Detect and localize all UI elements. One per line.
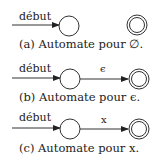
start-label: début bbox=[19, 10, 52, 23]
automaton-empty-set: début (a) Automate pour ∅. bbox=[12, 10, 147, 51]
automata-figure: début (a) Automate pour ∅. début ϵ (b) A… bbox=[0, 0, 162, 162]
accepting-state bbox=[127, 15, 147, 35]
start-label: début bbox=[19, 111, 52, 124]
accepting-state bbox=[129, 69, 149, 89]
initial-state bbox=[60, 69, 80, 89]
start-label: début bbox=[19, 62, 52, 75]
caption-a: (a) Automate pour ∅. bbox=[19, 37, 143, 51]
transition-label-x: x bbox=[101, 114, 107, 125]
initial-state bbox=[60, 119, 80, 139]
caption-c: (c) Automate pour x. bbox=[19, 141, 139, 155]
caption-b: (b) Automate pour ϵ. bbox=[19, 90, 140, 104]
accepting-state bbox=[129, 119, 149, 139]
initial-state bbox=[59, 16, 79, 36]
automaton-x: début x (c) Automate pour x. bbox=[12, 111, 149, 155]
automaton-epsilon: début ϵ (b) Automate pour ϵ. bbox=[12, 62, 149, 104]
transition-label-epsilon: ϵ bbox=[100, 63, 106, 74]
